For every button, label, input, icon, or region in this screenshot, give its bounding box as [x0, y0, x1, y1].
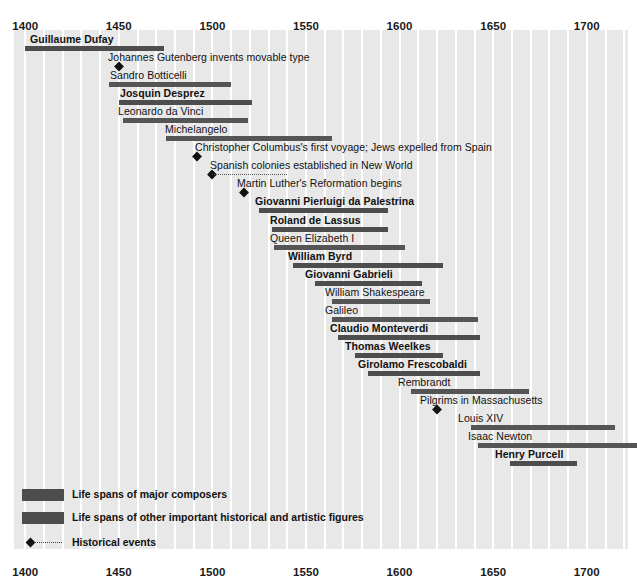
row-label: Queen Elizabeth I — [270, 232, 354, 244]
axis-tick-label-bottom-1500: 1500 — [199, 566, 225, 578]
axis-tick-label-bottom-1550: 1550 — [293, 566, 319, 578]
legend-item-1: Life spans of other important historical… — [0, 510, 632, 528]
axis-tick-label-top-1500: 1500 — [199, 20, 225, 32]
legend-label: Historical events — [72, 536, 156, 549]
event-dotted-line — [212, 174, 287, 176]
row-label: Henry Purcell — [495, 448, 563, 460]
row-label: Rembrandt — [398, 376, 450, 388]
row-label: Josquin Desprez — [120, 87, 205, 99]
legend-label: Life spans of major composers — [72, 488, 227, 501]
row-label: William Byrd — [288, 250, 352, 262]
axis-tick-label-bottom-1600: 1600 — [387, 566, 413, 578]
legend-swatch — [22, 489, 64, 501]
row-label: Giovanni Pierluigi da Palestrina — [255, 195, 414, 207]
axis-tick-label-bottom-1400: 1400 — [12, 566, 38, 578]
legend-swatch — [22, 512, 64, 524]
row-label: Martin Luther's Reformation begins — [237, 177, 402, 189]
row-label: Isaac Newton — [468, 430, 532, 442]
axis-tick-label-top-1700: 1700 — [574, 20, 600, 32]
legend-label: Life spans of other important historical… — [72, 511, 364, 524]
axis-tick-label-top-1600: 1600 — [387, 20, 413, 32]
row-label: Michelangelo — [165, 123, 227, 135]
lifespan-bar — [510, 461, 577, 466]
legend-dotted-line — [34, 542, 62, 544]
axis-tick-label-top-1400: 1400 — [12, 20, 38, 32]
row-label: Spanish colonies established in New Worl… — [210, 159, 413, 171]
axis-tick-label-bottom-1700: 1700 — [574, 566, 600, 578]
axis-tick-label-top-1650: 1650 — [480, 20, 506, 32]
row-label: Roland de Lassus — [270, 214, 361, 226]
row-label: Giovanni Gabrieli — [305, 268, 393, 280]
axis-tick-label-bottom-1450: 1450 — [106, 566, 132, 578]
row-label: Girolamo Frescobaldi — [358, 358, 467, 370]
row-label: Pilgrims in Massachusetts — [420, 394, 543, 406]
row-label: Christopher Columbus's first voyage; Jew… — [195, 141, 492, 153]
row-label: Galileo — [325, 304, 358, 316]
legend-item-0: Life spans of major composers — [0, 487, 632, 505]
timeline-row: Henry Purcell — [0, 448, 632, 470]
row-label: Sandro Botticelli — [110, 69, 187, 81]
row-label: Guillaume Dufay — [30, 33, 114, 45]
axis-tick-label-top-1550: 1550 — [293, 20, 319, 32]
row-label: William Shakespeare — [325, 286, 425, 298]
row-label: Johannes Gutenberg invents movable type — [108, 51, 310, 63]
axis-tick-label-top-1450: 1450 — [106, 20, 132, 32]
legend-item-2: Historical events — [0, 535, 632, 553]
row-label: Thomas Weelkes — [345, 340, 431, 352]
row-label: Louis XIV — [458, 412, 503, 424]
row-label: Leonardo da Vinci — [118, 105, 203, 117]
axis-tick-label-bottom-1650: 1650 — [480, 566, 506, 578]
row-label: Claudio Monteverdi — [330, 322, 428, 334]
